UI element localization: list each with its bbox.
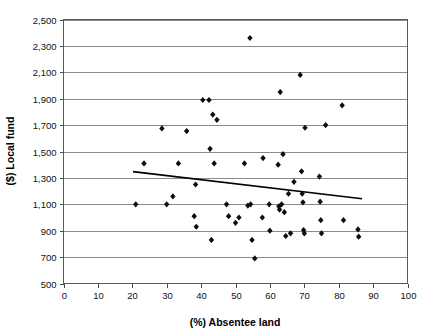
data-point — [224, 201, 229, 207]
y-tick-label-700: 700 — [41, 252, 57, 263]
x-tick-label-30: 30 — [162, 290, 173, 301]
data-point — [341, 217, 346, 223]
x-tickmark-group — [65, 284, 409, 288]
data-point — [207, 146, 212, 152]
data-point — [280, 151, 285, 157]
data-point — [317, 199, 322, 205]
y-axis-title: ($) Local fund — [4, 117, 16, 186]
data-point — [260, 214, 265, 220]
data-point — [200, 97, 205, 103]
y-tick-label-1500: 1,500 — [33, 147, 57, 158]
data-point — [193, 181, 198, 187]
data-point — [278, 89, 283, 95]
data-point — [260, 155, 265, 161]
y-tick-label-1700: 1,700 — [33, 120, 57, 131]
y-tick-label-1300: 1,300 — [33, 173, 57, 184]
chart-svg: 5007009001,1001,3001,5001,7001,9002,1002… — [0, 0, 436, 335]
data-point — [291, 179, 296, 185]
y-tick-label-500: 500 — [41, 279, 57, 290]
x-axis-tick-labels: 0102030405060708090100 — [62, 290, 417, 301]
data-point — [210, 111, 215, 117]
data-point-group — [133, 35, 361, 262]
data-point — [299, 168, 304, 174]
data-point — [282, 209, 287, 215]
trend-line — [133, 172, 362, 199]
data-point — [209, 237, 214, 243]
y-tickmark-group — [60, 21, 64, 285]
data-point — [249, 237, 254, 243]
data-point — [283, 233, 288, 239]
y-tick-label-2300: 2,300 — [33, 41, 57, 52]
data-point — [214, 117, 219, 123]
data-point — [206, 97, 211, 103]
data-point — [176, 160, 181, 166]
data-point — [356, 234, 361, 240]
data-point — [339, 102, 344, 108]
y-tick-label-2500: 2,500 — [33, 15, 57, 26]
x-tick-label-100: 100 — [401, 290, 417, 301]
data-point — [133, 201, 138, 207]
plot-frame — [64, 20, 408, 284]
data-point — [226, 213, 231, 219]
data-point — [170, 193, 175, 199]
x-tick-label-80: 80 — [334, 290, 345, 301]
data-point — [286, 191, 291, 197]
x-tick-label-20: 20 — [127, 290, 138, 301]
data-point — [211, 160, 216, 166]
y-tick-label-900: 900 — [41, 226, 57, 237]
x-tick-label-10: 10 — [93, 290, 104, 301]
y-tick-label-1900: 1,900 — [33, 94, 57, 105]
x-tick-label-50: 50 — [231, 290, 242, 301]
y-axis-tick-labels: 5007009001,1001,3001,5001,7001,9002,1002… — [33, 15, 57, 290]
data-point — [242, 160, 247, 166]
x-tick-label-0: 0 — [62, 290, 67, 301]
y-tick-label-2100: 2,100 — [33, 67, 57, 78]
data-point — [141, 160, 146, 166]
data-point — [267, 228, 272, 234]
data-point — [159, 125, 164, 131]
data-point — [247, 35, 252, 41]
x-tick-label-70: 70 — [299, 290, 310, 301]
data-point — [318, 217, 323, 223]
data-point — [252, 255, 257, 261]
x-tick-label-60: 60 — [265, 290, 276, 301]
data-point — [275, 162, 280, 168]
data-point — [194, 224, 199, 230]
y-tick-label-1100: 1,100 — [33, 199, 57, 210]
data-point — [323, 122, 328, 128]
scatter-chart: 5007009001,1001,3001,5001,7001,9002,1002… — [0, 0, 436, 335]
x-tick-label-40: 40 — [196, 290, 207, 301]
data-point — [233, 220, 238, 226]
data-point — [267, 201, 272, 207]
x-axis-title: (%) Absentee land — [190, 316, 281, 328]
data-point — [236, 214, 241, 220]
data-point — [192, 213, 197, 219]
data-point — [164, 201, 169, 207]
x-tick-label-90: 90 — [368, 290, 379, 301]
data-point — [184, 128, 189, 134]
